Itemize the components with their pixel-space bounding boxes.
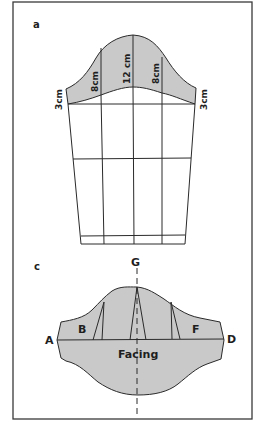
point-g-label: G [131, 256, 140, 269]
region-back-label: B [78, 323, 86, 336]
measure-left-inner: 8cm [90, 71, 100, 92]
point-d-label: D [227, 333, 236, 346]
measure-center: 12 cm [122, 54, 132, 84]
section-a-label: a [33, 19, 40, 30]
measure-right-inner: 8cm [151, 63, 161, 84]
measure-right-edge: 3cm [199, 89, 209, 110]
region-facing-label: Facing [118, 348, 158, 361]
point-a-label: A [45, 334, 54, 347]
region-front-label: F [192, 323, 200, 336]
section-c-label: c [34, 261, 40, 272]
sleeve-pattern-diagram: a 3cm 8cm 12 cm 8cm 3cm c [0, 0, 263, 423]
measure-left-edge: 3cm [54, 89, 64, 110]
